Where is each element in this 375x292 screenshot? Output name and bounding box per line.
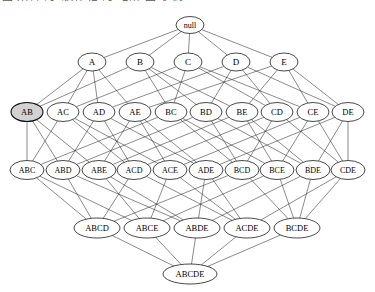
lattice-edge — [77, 117, 193, 164]
lattice-edge — [76, 67, 176, 107]
lattice-node-bde[interactable]: BDE — [296, 161, 330, 180]
node-ellipse — [74, 218, 120, 238]
lattice-node-be[interactable]: BE — [226, 103, 258, 122]
lattice-node-b[interactable]: B — [126, 53, 154, 71]
lattice-edge — [184, 117, 300, 164]
node-ellipse — [163, 264, 217, 284]
node-ellipse — [174, 218, 220, 238]
node-ellipse — [331, 161, 365, 180]
lattice-node-abc[interactable]: ABC — [10, 161, 44, 180]
lattice-node-ac[interactable]: AC — [47, 103, 79, 122]
lattice-edge — [37, 69, 83, 105]
node-ellipse — [261, 103, 293, 122]
lattice-node-cde[interactable]: CDE — [331, 161, 365, 180]
lattice-edge — [106, 179, 139, 219]
lattice-edge — [40, 176, 132, 220]
lattice-edge — [300, 179, 311, 218]
lattice-node-null[interactable]: null — [176, 17, 204, 34]
node-ellipse — [189, 161, 223, 180]
lattice-node-bc[interactable]: BC — [155, 103, 187, 122]
node-ellipse — [119, 103, 151, 122]
lattice-node-abde[interactable]: ABDE — [174, 218, 220, 238]
lattice-node-cd[interactable]: CD — [261, 103, 293, 122]
node-ellipse — [296, 161, 330, 180]
lattice-node-abcd[interactable]: ABCD — [74, 218, 120, 238]
lattice-node-acd[interactable]: ACD — [117, 161, 151, 180]
node-ellipse — [82, 161, 116, 180]
lattice-edge — [248, 67, 336, 106]
node-ellipse — [47, 103, 79, 122]
lattice-node-e[interactable]: E — [270, 53, 298, 71]
lattice-edge — [198, 32, 227, 55]
node-ellipse — [332, 103, 364, 122]
node-ellipse — [176, 17, 204, 34]
lattice-edge — [41, 117, 158, 164]
lattice-node-d[interactable]: D — [222, 53, 250, 71]
lattice-node-ade[interactable]: ADE — [189, 161, 223, 180]
node-ellipse — [83, 103, 115, 122]
node-ellipse — [10, 161, 44, 180]
node-ellipse — [78, 53, 106, 71]
lattice-edge — [261, 177, 336, 220]
lattice-edge — [111, 177, 184, 220]
node-ellipse — [270, 53, 298, 71]
node-ellipse — [155, 103, 187, 122]
node-ellipse — [126, 53, 154, 71]
node-ellipse — [124, 218, 170, 238]
lattice-edge — [93, 71, 97, 103]
lattice-node-acde[interactable]: ACDE — [224, 218, 270, 238]
lattice-node-ab[interactable]: AB — [11, 103, 43, 122]
lattice-edge — [148, 117, 264, 164]
lattice-edge — [163, 176, 264, 221]
lattice-node-bce[interactable]: BCE — [260, 161, 294, 180]
lattice-node-abd[interactable]: ABD — [46, 161, 80, 180]
lattice-edge — [200, 67, 300, 107]
lattice-edge — [174, 71, 185, 103]
lattice-edge — [112, 236, 174, 266]
node-ellipse — [260, 161, 294, 180]
lattice-node-abce[interactable]: ABCE — [124, 218, 170, 238]
node-ellipse — [225, 161, 259, 180]
lattice-edge — [243, 70, 270, 104]
lattice-edge — [188, 34, 189, 54]
node-ellipse — [224, 218, 270, 238]
lattice-edge — [149, 66, 272, 107]
lattice-edge — [149, 32, 181, 56]
lattice-edge — [199, 68, 266, 106]
node-ellipse — [174, 53, 202, 71]
lattice-edge — [37, 178, 87, 219]
lattice-edge — [156, 237, 182, 264]
lattice-node-ace[interactable]: ACE — [153, 161, 187, 180]
lattice-edge — [114, 176, 228, 222]
lattice-node-bcd[interactable]: BCD — [225, 161, 259, 180]
lattice-edge — [103, 179, 128, 218]
lattice-node-bcde[interactable]: BCDE — [274, 218, 320, 238]
node-ellipse — [117, 161, 151, 180]
lattice-edge — [220, 117, 335, 164]
lattice-node-c[interactable]: C — [174, 53, 202, 71]
lattice-node-a[interactable]: A — [78, 53, 106, 71]
lattice-edge — [99, 70, 128, 104]
lattice-edge — [147, 176, 233, 220]
node-ellipse — [274, 218, 320, 238]
lattice-edge — [40, 67, 129, 106]
node-ellipse — [190, 103, 222, 122]
lattice-node-ae[interactable]: AE — [119, 103, 151, 122]
lattice-node-de[interactable]: DE — [332, 103, 364, 122]
lattice-node-ad[interactable]: AD — [83, 103, 115, 122]
lattice-edge — [68, 179, 91, 218]
lattice-edge — [151, 179, 166, 218]
node-ellipse — [226, 103, 258, 122]
lattice-edge — [113, 117, 229, 164]
node-ellipse — [297, 103, 329, 122]
powerset-lattice-figure: 图 集合 的 幂集 格 的 哈斯 图 示例 nullABCDEABACADAEB… — [0, 0, 375, 292]
lattice-node-abcde[interactable]: ABCDE — [163, 264, 217, 284]
lattice-node-abe[interactable]: ABE — [82, 161, 116, 180]
lattice-node-ce[interactable]: CE — [297, 103, 329, 122]
node-ellipse — [153, 161, 187, 180]
lattice-svg-canvas: nullABCDEABACADAEBCBDBECDCEDEABCABDABEAC… — [0, 0, 375, 292]
node-layer: nullABCDEABACADAEBCBDBECDCEDEABCABDABEAC… — [10, 17, 365, 285]
lattice-edge — [201, 237, 236, 265]
lattice-node-bd[interactable]: BD — [190, 103, 222, 122]
node-ellipse — [222, 53, 250, 71]
